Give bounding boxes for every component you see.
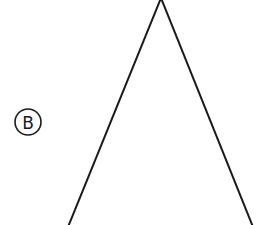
figure-label: B bbox=[22, 113, 34, 133]
triangle-right-side bbox=[161, 0, 253, 225]
figure-label-badge: B bbox=[15, 109, 41, 135]
triangle-left-side bbox=[68, 0, 161, 225]
diagram-canvas: B bbox=[0, 0, 263, 225]
triangle-diagram: B bbox=[0, 0, 263, 225]
